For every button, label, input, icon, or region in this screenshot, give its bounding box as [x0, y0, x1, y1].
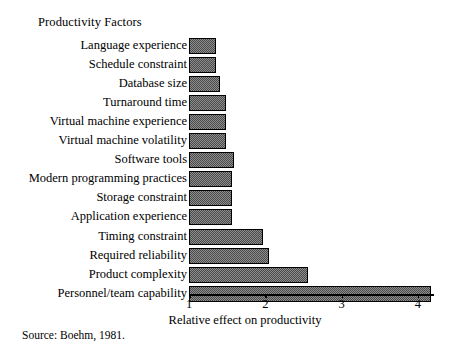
bar-row: Required reliability — [0, 246, 466, 265]
bar-row: Language experience — [0, 36, 466, 55]
chart-header-title: Productivity Factors — [38, 15, 142, 30]
x-tick-label: 2 — [255, 297, 275, 312]
plot-area: Language experienceSchedule constraintDa… — [0, 36, 466, 294]
bar — [189, 95, 226, 111]
bar-row: Storage constraint — [0, 188, 466, 207]
x-tick-label: 4 — [408, 297, 428, 312]
bar-category-label: Software tools — [114, 151, 187, 167]
x-axis-line — [189, 294, 434, 296]
bar-row: Application experience — [0, 207, 466, 226]
bar-category-label: Modern programming practices — [29, 170, 187, 186]
source-note: Source: Boehm, 1981. — [22, 329, 125, 341]
bar-row: Turnaround time — [0, 93, 466, 112]
bar-category-label: Turnaround time — [103, 94, 187, 110]
bar-chart-figure: Productivity Factors Language experience… — [0, 0, 466, 344]
bar-category-label: Timing constraint — [98, 228, 187, 244]
bar — [189, 38, 216, 54]
bar-category-label: Language experience — [80, 37, 187, 53]
x-axis-title: Relative effect on productivity — [0, 313, 466, 328]
bar-category-label: Virtual machine volatility — [59, 132, 187, 148]
bar-row: Virtual machine experience — [0, 112, 466, 131]
bar-row: Schedule constraint — [0, 55, 466, 74]
bar — [189, 133, 226, 149]
bar — [189, 248, 269, 264]
bar-category-label: Product complexity — [89, 266, 187, 282]
bar-row: Software tools — [0, 150, 466, 169]
bar-category-label: Required reliability — [89, 247, 187, 263]
bar — [189, 76, 220, 92]
bar-row: Product complexity — [0, 265, 466, 284]
x-tick-label: 1 — [179, 297, 199, 312]
bar-category-label: Storage constraint — [96, 189, 187, 205]
bar — [189, 57, 216, 73]
bar-category-label: Personnel/team capability — [58, 285, 187, 301]
bar-category-label: Database size — [119, 75, 187, 91]
bar — [189, 152, 234, 168]
bar-row: Database size — [0, 74, 466, 93]
bar-row: Modern programming practices — [0, 169, 466, 188]
x-tick-label: 3 — [332, 297, 352, 312]
bar — [189, 171, 232, 187]
bar — [189, 209, 232, 225]
bar-category-label: Schedule constraint — [89, 56, 187, 72]
bar-category-label: Application experience — [71, 208, 187, 224]
bar — [189, 267, 308, 283]
bar — [189, 114, 226, 130]
bar-row: Virtual machine volatility — [0, 131, 466, 150]
bar-row: Timing constraint — [0, 227, 466, 246]
bar-category-label: Virtual machine experience — [50, 113, 187, 129]
bar — [189, 190, 232, 206]
bar — [189, 229, 263, 245]
